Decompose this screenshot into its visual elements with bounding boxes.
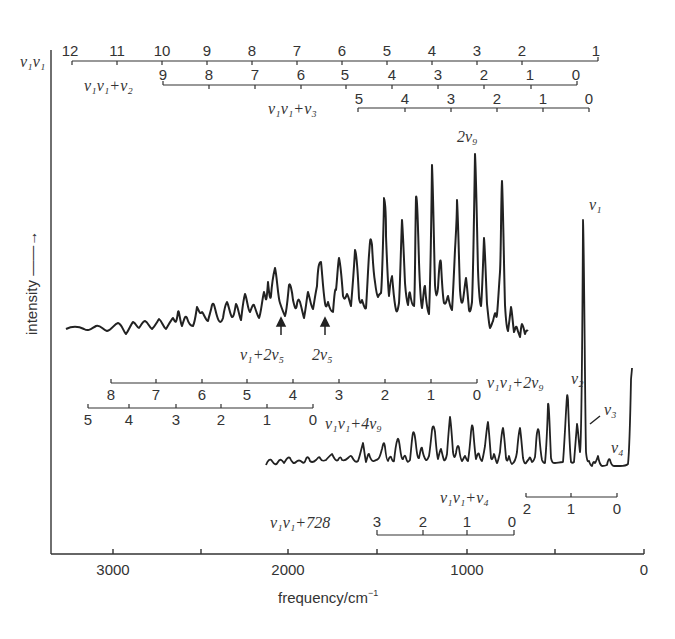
label-v3: ν₃ [604,401,617,418]
label-v2: ν₂ [571,370,584,387]
svg-text:1: 1 [463,513,471,530]
svg-text:11: 11 [109,42,125,59]
svg-text:1: 1 [567,500,575,517]
svg-text:9: 9 [203,42,211,59]
label-v1v1-plus-v4: ν₁ν₁+ν₄ [440,489,489,506]
svg-text:8: 8 [107,386,115,403]
svg-text:1: 1 [539,90,547,107]
svg-text:7: 7 [251,66,259,83]
label-v1v1-plus-v3: ν₁ν₁+ν₃ [268,100,317,117]
svg-text:12: 12 [62,42,79,59]
svg-text:9: 9 [159,66,167,83]
svg-text:1: 1 [263,411,271,428]
svg-text:7: 7 [293,42,301,59]
svg-text:3: 3 [335,386,343,403]
spectrum-chart: 3000 2000 1000 0 frequency/cm−1 intensit… [0,0,675,639]
label-v1v1-plus-2v9: ν₁ν₁+2ν₉ [487,374,544,391]
svg-text:0: 0 [585,90,593,107]
arrow-up-icon [277,318,285,326]
svg-text:0: 0 [613,500,621,517]
svg-text:6: 6 [198,386,206,403]
axes [51,50,644,554]
svg-text:5: 5 [243,386,251,403]
svg-text:2: 2 [419,513,427,530]
svg-text:0: 0 [508,513,516,530]
label-v1v1-plus-728: ν₁ν₁+728 [270,514,330,531]
label-v1: ν₁ [589,196,602,213]
svg-text:6: 6 [338,42,346,59]
svg-text:4: 4 [125,411,133,428]
progression-ladders [72,57,617,535]
arrow-up-icon [321,318,329,326]
svg-text:2: 2 [518,42,526,59]
label-2v9: 2ν₉ [457,128,478,145]
svg-text:7: 7 [152,386,160,403]
svg-text:4: 4 [401,90,409,107]
svg-text:5: 5 [341,66,349,83]
svg-text:5: 5 [355,90,363,107]
svg-text:3: 3 [373,513,381,530]
svg-text:8: 8 [205,66,213,83]
label-v1v1-plus-4v9: ν₁ν₁+4ν₉ [325,415,382,432]
svg-text:1: 1 [526,66,534,83]
svg-text:4: 4 [388,66,396,83]
svg-text:5: 5 [383,42,391,59]
svg-text:3: 3 [447,90,455,107]
svg-text:0: 0 [309,411,317,428]
x-axis-label: frequency/cm−1 [278,588,378,606]
svg-text:3: 3 [172,411,180,428]
svg-text:1: 1 [427,386,435,403]
x-tick-0: 0 [640,561,648,578]
svg-text:8: 8 [248,42,256,59]
label-v1v1: ν₁ν₁ [20,53,45,70]
svg-text:3: 3 [473,42,481,59]
label-v1v1-plus-v2: ν₁ν₁+ν₂ [84,77,133,94]
svg-text:10: 10 [154,42,171,59]
x-tick-2000: 2000 [271,561,304,578]
svg-text:6: 6 [297,66,305,83]
svg-text:2: 2 [381,386,389,403]
svg-text:0: 0 [473,386,481,403]
annotation-arrows [277,318,600,424]
label-v4: ν₄ [611,439,624,456]
svg-text:0: 0 [572,66,580,83]
x-tick-3000: 3000 [96,561,129,578]
y-axis-label: intensity ——→ [23,231,40,335]
svg-text:2: 2 [217,411,225,428]
svg-text:2: 2 [493,90,501,107]
svg-text:5: 5 [84,411,92,428]
svg-text:2: 2 [480,66,488,83]
label-2v5: 2ν₅ [312,346,333,363]
svg-text:2: 2 [523,500,531,517]
upper-spectrum-trace [66,154,528,337]
lower-spectrum-trace [266,220,632,466]
x-tick-1000: 1000 [450,561,483,578]
svg-text:4: 4 [289,386,297,403]
svg-text:3: 3 [434,66,442,83]
svg-text:1: 1 [592,42,600,59]
label-v1-plus-2v5: ν₁+2ν₅ [240,346,284,363]
svg-text:4: 4 [428,42,436,59]
